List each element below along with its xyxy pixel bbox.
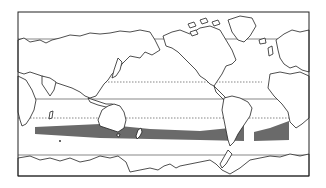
world-map: [0, 0, 326, 188]
british-isles-outline: [268, 46, 273, 56]
eurasia-outline: [18, 30, 160, 98]
madagascar-outline: [49, 111, 53, 119]
africa-outline: [18, 76, 36, 126]
europe-outline: [276, 30, 309, 72]
tasmania-outline: [117, 134, 120, 137]
island-dot: [59, 140, 61, 142]
shaded-band: [35, 121, 289, 141]
antarctic-peninsula-outline: [220, 150, 232, 168]
north-america-outline: [163, 26, 236, 86]
africa-west-outline: [268, 72, 309, 128]
antarctica-outline: [18, 154, 309, 176]
greenland-outline: [228, 16, 256, 42]
